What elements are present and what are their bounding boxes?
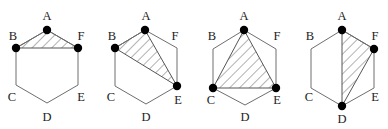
vertex-dot-f [370,45,378,53]
vertex-label-a: A [141,9,150,23]
vertex-label-b: B [208,29,216,43]
vertex-label-e: E [174,93,182,107]
hexagon-3: ABCDEF [207,9,281,124]
shaded-triangle-ace [213,30,276,88]
hexagon-figure: ABCDEF ABCDEF ABCDEF ABCDEF [0,0,388,129]
vertex-label-c: C [107,90,115,104]
vertex-dot-e [173,82,181,90]
vertex-label-a: A [239,9,248,23]
vertex-label-f: F [78,29,85,43]
hexagon-4: ABCDEF [305,9,379,126]
vertex-dot-a [141,26,149,34]
vertex-dot-d [338,102,346,110]
vertex-label-d: D [42,110,51,124]
vertex-dot-f [74,44,82,52]
vertex-label-d: D [337,112,346,126]
vertex-label-a: A [42,9,51,23]
vertex-label-e: E [77,90,85,104]
vertex-dot-c [209,84,217,92]
vertex-dot-a [338,26,346,34]
vertex-dot-a [240,26,248,34]
vertex-label-b: B [9,29,17,43]
vertex-label-e: E [273,93,281,107]
vertex-label-c: C [305,90,313,104]
hexagon-diagram-svg: ABCDEF ABCDEF ABCDEF ABCDEF [0,0,388,129]
vertex-label-c: C [207,93,215,107]
vertex-label-c: C [8,90,16,104]
vertex-label-d: D [240,110,249,124]
vertex-label-e: E [371,90,379,104]
shaded-triangle-abe [115,30,177,86]
vertex-dot-b [111,44,119,52]
vertex-label-d: D [141,110,150,124]
vertex-dot-a [43,26,51,34]
vertex-label-a: A [337,9,346,23]
vertex-dot-b [12,44,20,52]
vertex-dot-e [272,84,280,92]
vertex-label-f: F [372,29,379,43]
vertex-label-f: F [172,29,179,43]
hexagon-1: ABCDEF [8,9,85,124]
shaded-triangle-afd [342,30,374,106]
vertex-label-b: B [108,29,116,43]
hexagon-2: ABCDEF [107,9,182,124]
vertex-label-b: B [306,29,314,43]
vertex-label-f: F [274,29,281,43]
